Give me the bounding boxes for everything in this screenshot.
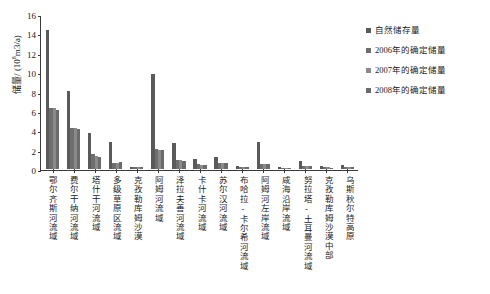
bar-group	[42, 16, 63, 169]
x-tick-mark	[305, 169, 306, 173]
bar-chart: 储量/ (108m3/a) 0246810121416 鄂尔齐斯河流域费尔干纳河…	[0, 0, 490, 294]
legend-label: 2006年的确定储量	[375, 46, 446, 55]
x-label-cell: 努拉塔-土耳曼河流域	[295, 176, 316, 288]
bar-3	[351, 167, 354, 169]
x-tick-mark	[137, 169, 138, 173]
x-tick-label: 阿姆河流域	[153, 176, 162, 223]
y-tick-label: 14	[18, 31, 36, 39]
bar-3	[245, 167, 248, 169]
legend-item: 2007年的确定储量	[366, 66, 446, 75]
y-tick-label: 10	[18, 70, 36, 78]
bar-3	[203, 165, 206, 169]
x-tick-label: 克孜勒库姆沙漠中部	[323, 176, 332, 261]
x-tick-mark	[74, 169, 75, 173]
y-tick-label: 2	[18, 148, 36, 156]
x-tick-label: 塔什干河流域	[90, 176, 99, 232]
x-tick-mark	[95, 169, 96, 173]
x-label-cell: 鄂尔齐斯河流域	[41, 176, 62, 288]
bar-3	[224, 163, 227, 169]
bar-3	[330, 168, 333, 169]
bar-group	[337, 16, 358, 169]
bar-3	[56, 110, 59, 169]
x-label-cell: 咸海沿岸流域	[274, 176, 295, 288]
y-tick-label: 16	[18, 12, 36, 20]
legend-swatch-icon	[366, 88, 371, 93]
y-tick-mark	[38, 74, 41, 75]
legend-item: 2008年的确定储量	[366, 86, 446, 95]
x-label-cell: 苏尔汉河流域	[211, 176, 232, 288]
x-label-cell: 泽拉夫善河流域	[168, 176, 189, 288]
y-tick-label: 12	[18, 51, 36, 59]
bar-group	[147, 16, 168, 169]
legend-label: 自然储存量	[375, 26, 420, 35]
x-label-cell: 布哈拉-卡尔希河流域	[232, 176, 253, 288]
y-tick-label: 8	[18, 90, 36, 98]
bar-3	[309, 166, 312, 169]
x-tick-label: 卡什卡河流域	[196, 176, 205, 232]
plot-area: 0246810121416	[40, 16, 358, 171]
y-tick-mark	[38, 16, 41, 17]
bar-group	[105, 16, 126, 169]
bar-group	[211, 16, 232, 169]
y-tick-mark	[38, 55, 41, 56]
legend-label: 2008年的确定储量	[375, 86, 446, 95]
bar-3	[266, 164, 269, 169]
x-tick-label: 费尔干纳河流域	[68, 176, 77, 242]
x-tick-mark	[116, 169, 117, 173]
x-tick-mark	[200, 169, 201, 173]
x-tick-mark	[326, 169, 327, 173]
x-label-cell: 多级草原区流域	[105, 176, 126, 288]
bar-series-container	[42, 16, 358, 169]
x-tick-mark	[221, 169, 222, 173]
x-label-cell: 费尔干纳河流域	[62, 176, 83, 288]
bar-3	[77, 129, 80, 169]
x-tick-mark	[179, 169, 180, 173]
y-tick-mark	[38, 113, 41, 114]
x-tick-label: 阿姆河左岸流域	[259, 176, 268, 242]
y-tick-label: 4	[18, 128, 36, 136]
bar-group	[63, 16, 84, 169]
x-tick-mark	[263, 169, 264, 173]
bar-3	[119, 162, 122, 169]
legend-item: 自然储存量	[366, 26, 446, 35]
bar-group	[295, 16, 316, 169]
x-tick-label: 克孜勒库姆沙漠	[132, 176, 141, 242]
legend-label: 2007年的确定储量	[375, 66, 446, 75]
y-tick-mark	[38, 94, 41, 95]
y-tick-mark	[38, 132, 41, 133]
bar-3	[288, 168, 291, 169]
bar-group	[168, 16, 189, 169]
x-tick-mark	[158, 169, 159, 173]
chart-legend: 自然储存量2006年的确定储量2007年的确定储量2008年的确定储量	[366, 26, 446, 106]
x-tick-mark	[284, 169, 285, 173]
x-tick-label: 布哈拉-卡尔希河流域	[238, 176, 247, 271]
y-tick-mark	[38, 35, 41, 36]
x-label-cell: 阿姆河流域	[147, 176, 168, 288]
bar-group	[126, 16, 147, 169]
x-tick-mark	[53, 169, 54, 173]
x-label-cell: 卡什卡河流域	[189, 176, 210, 288]
x-label-cell: 阿姆河左岸流域	[253, 176, 274, 288]
y-tick-mark	[38, 152, 41, 153]
x-tick-mark	[242, 169, 243, 173]
x-axis-labels: 鄂尔齐斯河流域费尔干纳河流域塔什干河流域多级草原区流域克孜勒库姆沙漠阿姆河流域泽…	[41, 176, 359, 288]
bar-3	[182, 161, 185, 169]
bar-group	[189, 16, 210, 169]
legend-swatch-icon	[366, 48, 371, 53]
legend-item: 2006年的确定储量	[366, 46, 446, 55]
x-label-cell: 克孜勒库姆沙漠中部	[317, 176, 338, 288]
y-tick-mark	[38, 171, 41, 172]
bar-group	[316, 16, 337, 169]
legend-swatch-icon	[366, 28, 371, 33]
x-label-cell: 塔什干河流域	[83, 176, 104, 288]
legend-swatch-icon	[366, 68, 371, 73]
y-tick-label: 0	[18, 167, 36, 175]
bar-group	[253, 16, 274, 169]
x-label-cell: 克孜勒库姆沙漠	[126, 176, 147, 288]
x-tick-label: 乌斯秋尔特高原	[344, 176, 353, 242]
bar-group	[232, 16, 253, 169]
bar-group	[84, 16, 105, 169]
x-tick-label: 苏尔汉河流域	[217, 176, 226, 232]
bar-3	[98, 157, 101, 169]
y-axis-title: 储量/ (108m3/a)	[10, 5, 23, 125]
